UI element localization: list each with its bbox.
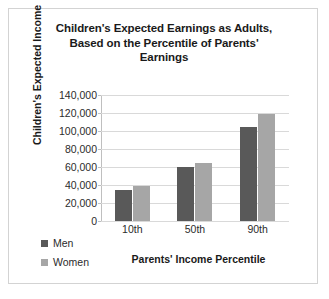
y-axis-tick-labels: 020,00040,00060,00080,000100,000120,0001… xyxy=(37,95,97,221)
plot-area xyxy=(101,95,289,221)
y-axis-tick-label: 80,000 xyxy=(41,143,97,155)
x-axis-label-10th: 10th xyxy=(101,223,164,235)
y-axis-tick-label: 60,000 xyxy=(41,161,97,173)
bar-group xyxy=(164,95,227,221)
y-axis-tick-label: 120,000 xyxy=(41,107,97,119)
chart-legend: MenWomen xyxy=(41,237,113,275)
bar-women-10th xyxy=(133,186,150,221)
bar-men-90th xyxy=(240,127,257,222)
plot-inner xyxy=(101,95,289,221)
legend-swatch-icon xyxy=(41,240,48,247)
x-axis-category-labels: 10th50th90th xyxy=(101,223,289,239)
y-axis-tick-label: 140,000 xyxy=(41,89,97,101)
bar-women-90th xyxy=(258,114,275,221)
y-axis-tick-label: 20,000 xyxy=(41,197,97,209)
bar-group xyxy=(226,95,289,221)
legend-label: Men xyxy=(53,237,73,249)
chart-title: Children's Expected Earnings as Adults, … xyxy=(35,21,293,65)
bar-group xyxy=(101,95,164,221)
chart-title-line-3: Earnings xyxy=(35,50,293,65)
chart-title-line-2: Based on the Percentile of Parents' xyxy=(35,36,293,51)
chart-frame: Children's Expected Earnings as Adults, … xyxy=(8,8,318,284)
legend-label: Women xyxy=(53,256,89,268)
bar-women-50th xyxy=(195,163,212,222)
y-axis-tick xyxy=(98,221,101,222)
legend-item-women[interactable]: Women xyxy=(41,256,113,268)
x-axis-label-90th: 90th xyxy=(226,223,289,235)
bar-men-50th xyxy=(177,167,194,221)
y-axis-tick-label: 100,000 xyxy=(41,125,97,137)
legend-swatch-icon xyxy=(41,259,48,266)
y-axis-tick-label: 40,000 xyxy=(41,179,97,191)
bar-men-10th xyxy=(115,190,132,222)
chart-title-line-1: Children's Expected Earnings as Adults, xyxy=(35,21,293,36)
gridline xyxy=(101,221,289,222)
legend-item-men[interactable]: Men xyxy=(41,237,113,249)
x-axis-label-50th: 50th xyxy=(164,223,227,235)
x-axis-title: Parents' Income Percentile xyxy=(101,253,296,265)
y-axis-tick-label: 0 xyxy=(41,215,97,227)
